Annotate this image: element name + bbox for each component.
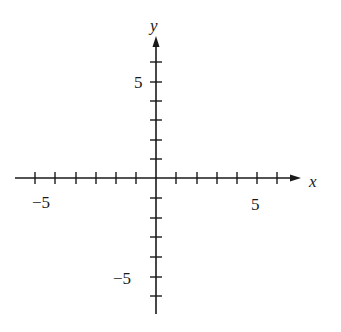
x-tick-label-neg5: −5: [32, 193, 50, 212]
y-tick-label-5: 5: [134, 73, 143, 92]
x-tick-label-5: 5: [251, 195, 260, 214]
x-axis-arrow-icon: [290, 175, 301, 182]
y-axis-label: y: [148, 16, 158, 35]
x-axis-label: x: [308, 172, 317, 191]
y-axis-arrow-icon: [153, 36, 160, 47]
coordinate-plane: x y −5 5 5 −5: [0, 0, 341, 332]
y-tick-label-neg5: −5: [113, 269, 131, 288]
